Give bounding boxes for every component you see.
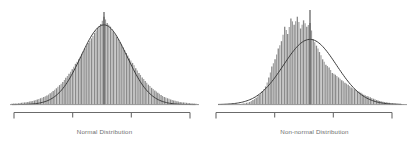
panel-non-normal-distribution: Non-normal Distribution xyxy=(210,0,419,153)
plot-canvas-normal xyxy=(0,0,209,120)
panel-caption-non-normal: Non-normal Distribution xyxy=(210,127,419,136)
bars-group-non-normal xyxy=(240,17,403,105)
axis-ruler-non-normal xyxy=(216,113,392,119)
histogram-normal xyxy=(0,0,209,120)
figure-root: Normal Distribution Non-normal Distribut… xyxy=(0,0,419,153)
axis-ruler-normal xyxy=(14,113,190,119)
panel-caption-normal: Normal Distribution xyxy=(0,127,209,136)
bars-group-normal xyxy=(12,17,198,105)
histogram-non-normal xyxy=(210,0,419,120)
panel-normal-distribution: Normal Distribution xyxy=(0,0,209,153)
plot-canvas-non-normal xyxy=(210,0,419,120)
